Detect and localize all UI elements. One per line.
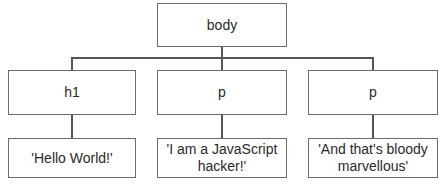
node-body-label: body [207,17,237,34]
text-node-p-2-content: 'And that's bloody marvellous' [317,141,429,175]
node-p-1-label: p [218,84,226,101]
text-node-h1-content: 'Hello World!' [31,150,112,167]
node-body: body [157,3,287,47]
node-h1: h1 [8,70,136,115]
node-p-1: p [157,70,287,115]
connector-h1-up [71,57,73,70]
node-p-2: p [308,70,438,115]
text-node-p-1: 'I am a JavaScript hacker!' [157,138,287,178]
dom-tree-diagram: body h1 p p 'Hello World!' 'I am a JavaS… [0,0,444,188]
connector-h1-text [71,115,73,138]
node-h1-label: h1 [64,84,80,101]
connector-p1-up [221,57,223,70]
text-node-p-1-content: 'I am a JavaScript hacker!' [166,141,278,175]
connector-p1-text [221,115,223,138]
text-node-h1: 'Hello World!' [8,138,136,178]
connector-p2-up [372,57,374,70]
connector-p2-text [372,115,374,138]
node-p-2-label: p [369,84,377,101]
text-node-p-2: 'And that's bloody marvellous' [308,138,438,178]
